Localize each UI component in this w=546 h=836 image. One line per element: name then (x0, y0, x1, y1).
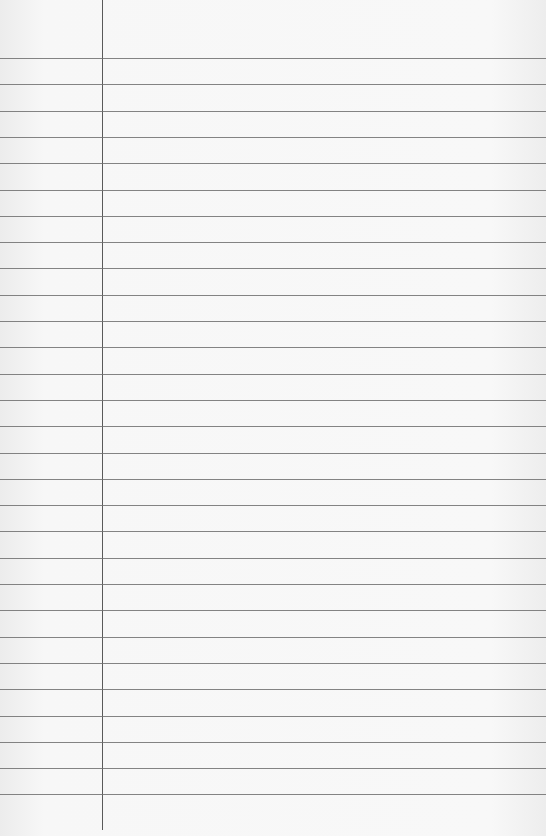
ruled-line (0, 479, 546, 480)
ruled-line (0, 400, 546, 401)
ruled-line (0, 610, 546, 611)
ruled-line (0, 426, 546, 427)
ruled-line (0, 190, 546, 191)
ruled-line (0, 768, 546, 769)
ruled-line (0, 689, 546, 690)
ruled-line (0, 84, 546, 85)
ruled-line (0, 137, 546, 138)
ruled-line (0, 453, 546, 454)
ruled-line (0, 558, 546, 559)
ruled-line (0, 295, 546, 296)
ruled-line (0, 347, 546, 348)
ruled-line (0, 716, 546, 717)
lined-paper (0, 0, 546, 836)
ruled-line (0, 742, 546, 743)
ruled-line (0, 321, 546, 322)
ruled-line (0, 637, 546, 638)
ruled-line (0, 242, 546, 243)
ruled-line (0, 531, 546, 532)
ruled-line (0, 505, 546, 506)
ruled-line (0, 663, 546, 664)
ruled-line (0, 584, 546, 585)
ruled-line (0, 268, 546, 269)
ruled-line (0, 163, 546, 164)
margin-line (102, 0, 103, 830)
ruled-line (0, 794, 546, 795)
ruled-line (0, 58, 546, 59)
ruled-line (0, 374, 546, 375)
ruled-line (0, 111, 546, 112)
ruled-line (0, 216, 546, 217)
